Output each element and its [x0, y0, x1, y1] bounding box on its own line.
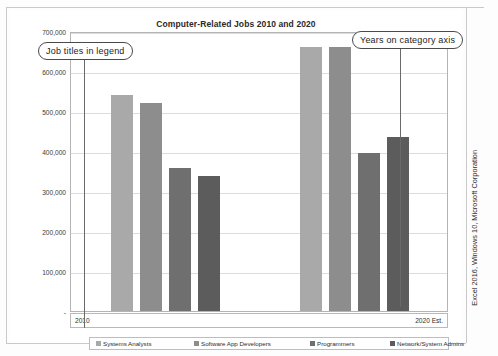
legend-label: Programmers: [317, 340, 354, 347]
legend-label: Systems Analysts: [103, 340, 151, 347]
plot-area: [70, 32, 448, 312]
page-border-right: [466, 7, 467, 343]
bar: [169, 168, 191, 311]
legend-label: Software App Developers: [201, 340, 271, 347]
legend-item: Software App Developers: [194, 340, 271, 347]
bar: [111, 95, 133, 311]
y-axis-tick-label: 100,000: [14, 269, 66, 276]
y-axis-tick-label: 600,000: [14, 69, 66, 76]
bar: [198, 176, 220, 311]
bar: [140, 103, 162, 311]
legend-label: Network/System Admins: [397, 340, 464, 347]
gridline: [71, 73, 447, 74]
chart-legend: Systems AnalystsSoftware App DevelopersP…: [89, 337, 449, 350]
category-axis-label: 2020 Est.: [415, 317, 443, 324]
y-axis-tick-label: 400,000: [14, 149, 66, 156]
chart-title: Computer-Related Jobs 2010 and 2020: [10, 19, 462, 29]
bar: [358, 153, 380, 311]
annotation-leader-line-legend: [84, 60, 85, 328]
annotation-leader-line-years: [400, 49, 401, 307]
y-axis-tick-label: 200,000: [14, 229, 66, 236]
y-axis-tick-labels: 700,000600,000500,000400,000300,000200,0…: [10, 32, 66, 312]
bar: [300, 47, 322, 311]
y-axis-tick-label: 700,000: [14, 29, 66, 36]
y-axis-tick-label: 300,000: [14, 189, 66, 196]
y-axis-tick-label: -: [14, 309, 66, 316]
legend-item: Network/System Admins: [390, 340, 464, 347]
bar: [387, 137, 409, 311]
category-axis: 20102020 Est.: [70, 313, 448, 328]
legend-item: Systems Analysts: [96, 340, 151, 347]
bar: [329, 47, 351, 311]
annotation-years-on-category-axis: Years on category axis: [352, 31, 463, 49]
figure-container: Computer-Related Jobs 2010 and 2020 700,…: [0, 0, 498, 356]
legend-swatch-icon: [194, 341, 199, 346]
legend-item: Programmers: [310, 340, 354, 347]
page-border-top: [6, 7, 484, 8]
annotation-job-titles-in-legend: Job titles in legend: [38, 42, 133, 60]
category-axis-label: 2010: [75, 317, 90, 324]
legend-swatch-icon: [96, 341, 101, 346]
source-caption: Excel 2016, Windows 10, Microsoft Corpor…: [470, 150, 479, 306]
page-border-left: [6, 7, 7, 343]
y-axis-tick-label: 500,000: [14, 109, 66, 116]
legend-swatch-icon: [310, 341, 315, 346]
legend-swatch-icon: [390, 341, 395, 346]
